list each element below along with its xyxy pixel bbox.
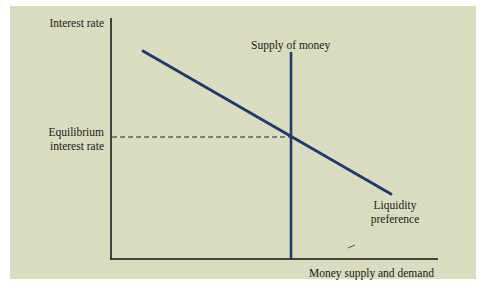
supply-of-money-label: Supply of money	[251, 38, 330, 52]
liquidity-label-line1: Liquidity	[360, 198, 430, 212]
equilibrium-label-line2: interest rate	[20, 139, 104, 153]
equilibrium-label-line1: Equilibrium	[20, 125, 104, 139]
stray-mark	[348, 245, 355, 248]
x-axis-label: Money supply and demand	[309, 266, 434, 280]
y-axis-label: Interest rate	[20, 16, 104, 30]
liquidity-preference-line	[143, 51, 391, 194]
liquidity-label-line2: preference	[360, 212, 430, 226]
